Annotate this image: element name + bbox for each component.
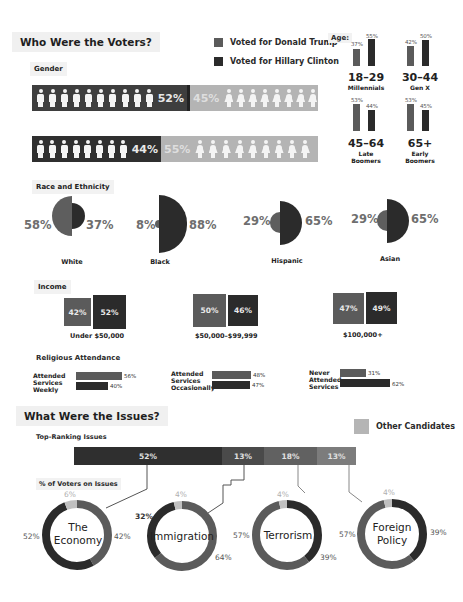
age-generation: Millennials: [338, 84, 394, 91]
economy-other-pct: 6%: [64, 490, 76, 499]
race-label: Hispanic: [265, 257, 309, 265]
economy-clinton-pct: 52%: [23, 532, 40, 541]
religion-label: Attended Services Occasionally: [171, 370, 215, 391]
income-clinton-box: 52%: [93, 295, 126, 329]
voters-on-issues-title: % of Voters on Issues: [36, 478, 121, 490]
religion-clinton-bar: [212, 381, 250, 389]
income-trump-box: 42%: [64, 298, 91, 326]
race-trump-pct: 29%: [243, 214, 271, 228]
race-clinton-pct: 88%: [189, 218, 217, 232]
economy-label: The Economy: [52, 521, 104, 547]
age-group-65-plus: 53% 45%: [404, 97, 444, 133]
issues-section-title: What Were the Issues?: [16, 406, 168, 426]
race-trump-half: [377, 210, 387, 231]
race-clinton-pct: 65%: [305, 214, 333, 228]
income-label: $50,000–$99,999: [195, 332, 257, 340]
top-issues-title: Top-Ranking Issues: [36, 433, 107, 441]
race-clinton-half: [159, 195, 187, 253]
religion-label: Never Attended Services: [309, 369, 341, 390]
legend-trump-label: Voted for Donald Trump: [230, 38, 337, 47]
women-clinton-pct: 55%: [161, 143, 193, 156]
income-clinton-box: 46%: [228, 295, 258, 326]
issue-foreign-policy-segment: 13%: [317, 447, 356, 465]
donut-label-line: The: [52, 521, 104, 534]
donut-label-line: Immigration: [150, 530, 214, 543]
women-trump-segment: 44%: [32, 136, 161, 162]
men-clinton-segment: 45%: [190, 85, 318, 111]
age-clinton-pct: 50%: [419, 33, 433, 39]
religion-trump-pct: 31%: [368, 370, 380, 376]
women-clinton-segment: 55%: [161, 136, 318, 162]
religion-clinton-bar: [76, 382, 108, 390]
religion-trump-pct: 48%: [253, 372, 265, 378]
religion-clinton-pct: 40%: [110, 383, 122, 389]
religion-label-line: Attended: [171, 370, 215, 377]
religion-clinton-bar: [340, 379, 390, 387]
age-generation: Gen X: [392, 84, 448, 91]
candidate-legend: Voted for Donald Trump Voted for Hillary…: [214, 38, 339, 66]
age-group-45-64: 53% 44%: [350, 97, 390, 133]
religion-label-line: Attended: [309, 376, 341, 383]
donut-label-line: Economy: [52, 534, 104, 547]
age-clinton-bar: [422, 40, 429, 66]
religion-label-line: Occasionally: [171, 384, 215, 391]
religion-clinton-pct: 47%: [252, 382, 264, 388]
income-label: $100,000+: [343, 331, 383, 339]
religion-label: Attended Services Weekly: [33, 372, 65, 393]
religion-trump-bar: [340, 369, 366, 377]
legend-clinton-label: Voted for Hillary Clinton: [230, 57, 339, 66]
age-generation: Late: [338, 150, 394, 157]
age-range: 18–29: [344, 72, 388, 84]
foreign-policy-trump-pct: 39%: [430, 528, 447, 537]
religion-trump-bar: [76, 372, 122, 380]
gender-women-bar: 44% 55%: [32, 136, 318, 162]
men-clinton-pct: 45%: [190, 92, 222, 105]
age-label: Age:: [328, 33, 352, 43]
religion-title: Religious Attendance: [36, 354, 120, 362]
woman-icon: [309, 89, 316, 107]
legend-other: Other Candidates: [354, 419, 455, 434]
race-trump-half: [52, 196, 72, 236]
gender-men-bar: 52% 45%: [32, 85, 318, 111]
immigration-other-pct: 4%: [175, 490, 187, 499]
terrorism-label: Terrorism: [262, 529, 314, 542]
race-label: White: [50, 258, 94, 266]
terrorism-other-pct: 4%: [277, 490, 289, 499]
age-range: 65+: [398, 138, 442, 150]
age-range: 30–44: [398, 72, 442, 84]
race-title: Race and Ethnicity: [32, 180, 114, 194]
religion-label-line: Weekly: [33, 386, 65, 393]
issue-economy-segment: 52%: [74, 447, 222, 465]
age-clinton-bar: [422, 110, 429, 131]
income-label: Under $50,000: [70, 332, 124, 340]
income-trump-box: 50%: [193, 294, 226, 327]
age-trump-pct: 53%: [404, 97, 418, 103]
immigration-clinton-pct: 32%: [135, 512, 153, 521]
income-clinton-box: 49%: [366, 292, 397, 324]
terrorism-trump-pct: 57%: [233, 531, 250, 540]
legend-trump: Voted for Donald Trump: [214, 38, 339, 47]
age-clinton-bar: [368, 39, 375, 66]
age-group-18-29: 37% 55%: [350, 33, 390, 67]
legend-other-label: Other Candidates: [376, 422, 455, 431]
age-group-30-44: 42% 50%: [404, 33, 444, 67]
religion-clinton-pct: 62%: [392, 381, 404, 387]
religion-label-line: Services: [309, 383, 341, 390]
age-clinton-pct: 45%: [419, 103, 433, 109]
age-range: 45–64: [344, 138, 388, 150]
race-trump-pct: 8%: [136, 218, 156, 232]
gender-title: Gender: [30, 62, 67, 76]
foreign-policy-clinton-pct: 57%: [339, 530, 356, 539]
income-title: Income: [34, 280, 71, 294]
man-icon: [119, 140, 126, 158]
woman-icon: [301, 140, 309, 158]
terrorism-clinton-pct: 39%: [320, 553, 337, 562]
race-label: Asian: [372, 255, 408, 263]
income-trump-box: 47%: [333, 293, 364, 324]
immigration-label: Immigration: [150, 530, 214, 543]
age-clinton-bar: [368, 110, 375, 131]
top-issues-bar: 52% 13% 18% 13%: [74, 447, 356, 465]
men-trump-pct: 52%: [155, 92, 187, 105]
donut-label-line: Foreign: [366, 521, 418, 534]
age-trump-pct: 37%: [350, 41, 364, 47]
